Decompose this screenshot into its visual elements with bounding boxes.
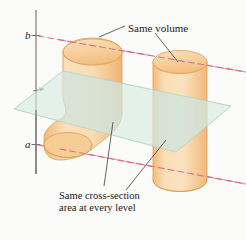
axis-label-b: b [25, 29, 31, 42]
annotation-cross-section-line2: area at every level [59, 202, 140, 214]
annotation-cross-section-line1: Same cross-section [59, 190, 140, 202]
annotation-cross-section: Same cross-section area at every level [59, 190, 140, 215]
annotation-same-volume: Same volume [128, 22, 188, 35]
axis-label-a: a [25, 138, 31, 151]
leader-same-volume-left [99, 26, 125, 37]
